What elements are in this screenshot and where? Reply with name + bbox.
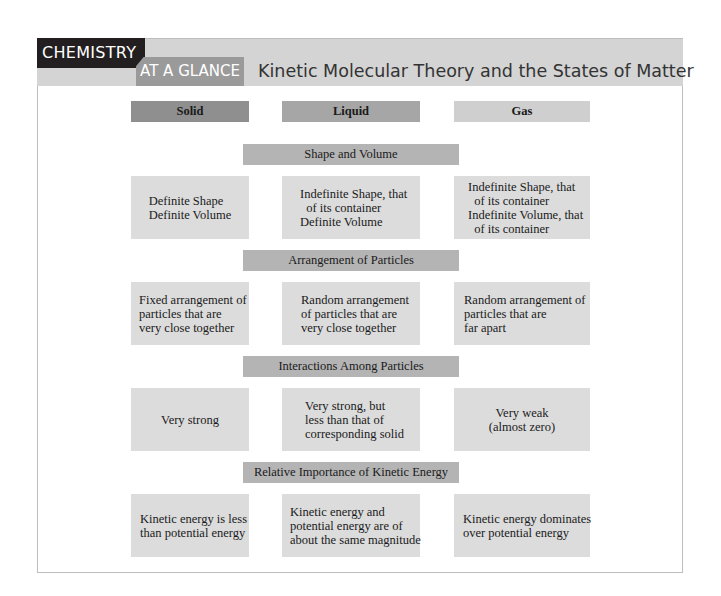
cell-gas-arrangement: Random arrangement of particles that are… [454,282,590,345]
figure-title: Kinetic Molecular Theory and the States … [258,57,694,86]
chemistry-badge: CHEMISTRY [37,38,145,68]
section-title-interactions: Interactions Among Particles [243,356,459,377]
cell-gas-kinetic-energy: Kinetic energy dominates over potential … [454,494,590,557]
cell-solid-arrangement: Fixed arrangement of particles that are … [131,282,249,345]
cell-solid-shape-volume: Definite Shape Definite Volume [131,176,249,239]
cell-gas-interactions: Very weak (almost zero) [454,388,590,451]
cell-text: Very weak (almost zero) [489,406,555,434]
section-title-arrangement: Arrangement of Particles [243,250,459,271]
cell-text: Fixed arrangement of particles that are … [139,293,247,335]
cell-text: Kinetic energy is less than potential en… [140,512,247,540]
column-header-gas: Gas [454,101,590,122]
cell-text: Random arrangement of particles that are… [464,293,585,335]
cell-text: Very strong, but less than that of corre… [305,399,404,441]
cell-text: Indefinite Shape, that of its container … [300,187,407,229]
cell-gas-shape-volume: Indefinite Shape, that of its container … [454,176,590,239]
cell-liquid-interactions: Very strong, but less than that of corre… [282,388,420,451]
cell-text: Indefinite Shape, that of its container … [468,180,583,236]
cell-solid-interactions: Very strong [131,388,249,451]
cell-liquid-kinetic-energy: Kinetic energy and potential energy are … [282,494,420,557]
column-header-liquid: Liquid [282,101,420,122]
section-title-shape-volume: Shape and Volume [243,144,459,165]
cell-text: Very strong [161,413,219,427]
cell-text: Random arrangement of particles that are… [301,293,409,335]
cell-solid-kinetic-energy: Kinetic energy is less than potential en… [131,494,249,557]
cell-liquid-shape-volume: Indefinite Shape, that of its container … [282,176,420,239]
section-title-kinetic-energy: Relative Importance of Kinetic Energy [243,462,459,483]
cell-text: Kinetic energy dominates over potential … [463,512,591,540]
column-header-solid: Solid [131,101,249,122]
cell-liquid-arrangement: Random arrangement of particles that are… [282,282,420,345]
cell-text: Definite Shape Definite Volume [149,194,232,222]
at-a-glance-badge: AT A GLANCE [136,57,244,86]
cell-text: Kinetic energy and potential energy are … [290,505,421,547]
